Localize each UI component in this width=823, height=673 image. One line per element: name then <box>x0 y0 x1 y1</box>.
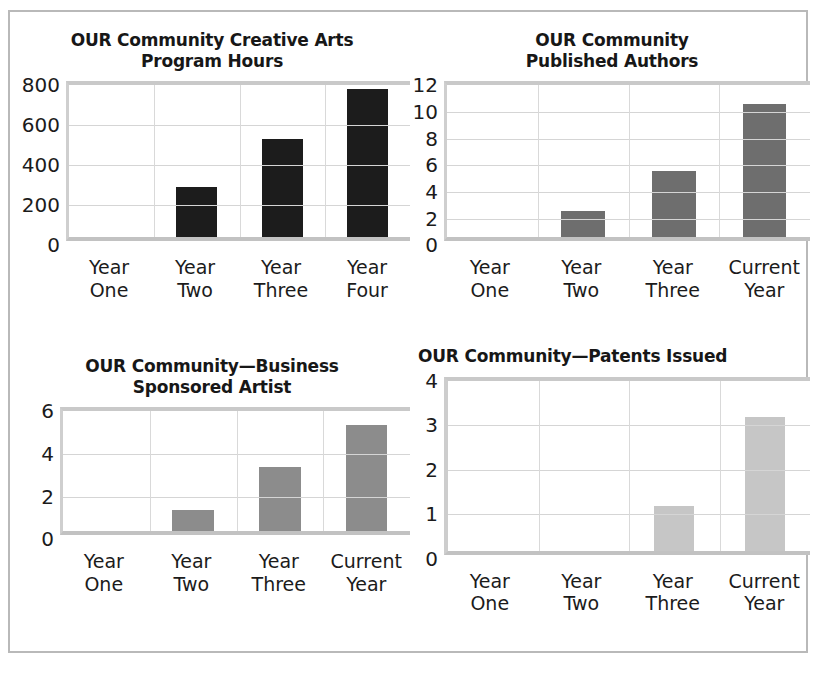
chart-panel-published-authors: OUR Community Published Authors 02468101… <box>414 22 810 340</box>
plot-area <box>60 407 410 535</box>
y-axis-tick-label: 2 <box>41 487 54 507</box>
x-axis-category-label: Year Three <box>238 256 324 301</box>
x-axis-category-label: Year One <box>444 570 536 615</box>
bar-slot <box>237 411 324 531</box>
plot-area <box>444 377 810 555</box>
vertical-gridline <box>629 381 630 551</box>
bar-slot <box>538 85 629 237</box>
bar-slot <box>63 411 150 531</box>
y-axis-tick-label: 2 <box>425 209 438 229</box>
bar <box>346 425 388 532</box>
x-axis-spacer <box>414 256 444 301</box>
bar <box>745 417 785 551</box>
y-axis-tick-label: 0 <box>425 235 438 255</box>
x-axis-labels: Year OneYear TwoYear ThreeCurrent Year <box>444 570 810 615</box>
y-axis-tick-label: 0 <box>47 235 60 255</box>
chart-title: OUR Community—Business Sponsored Artist <box>14 348 410 397</box>
chart-title: OUR Community Creative Arts Program Hour… <box>14 22 410 71</box>
bar-slot <box>447 85 538 237</box>
plot-area <box>444 81 810 241</box>
x-axis-category-label: Current Year <box>719 256 811 301</box>
x-axis-category-label: Year Two <box>152 256 238 301</box>
bar <box>654 506 694 551</box>
x-axis-labels: Year OneYear TwoYear ThreeYear Four <box>66 256 410 301</box>
plot-wrap: 0246 <box>14 407 410 543</box>
y-axis-tick-label: 6 <box>425 155 438 175</box>
y-axis: 024681012 <box>414 81 444 249</box>
bar-slot <box>323 411 410 531</box>
y-axis-tick-label: 0 <box>41 529 54 549</box>
vertical-gridline <box>240 85 241 237</box>
bar <box>172 510 214 531</box>
bar-slot <box>150 411 237 531</box>
y-axis: 0246 <box>14 407 60 543</box>
y-axis: 0200400600800 <box>14 81 66 249</box>
bar <box>259 467 301 531</box>
x-axis: Year OneYear TwoYear ThreeCurrent Year <box>414 570 810 615</box>
bar <box>561 211 605 238</box>
bar <box>743 104 787 237</box>
y-axis-tick-label: 4 <box>425 371 438 391</box>
y-axis: 01234 <box>414 377 444 563</box>
x-axis-spacer <box>14 550 60 595</box>
x-axis-category-label: Year Two <box>536 570 628 615</box>
y-axis-tick-label: 8 <box>425 129 438 149</box>
bar-slot <box>448 381 539 551</box>
x-axis: Year OneYear TwoYear ThreeCurrent Year <box>414 256 810 301</box>
bar <box>652 171 696 238</box>
plot-wrap: 024681012 <box>414 81 810 249</box>
x-axis-category-label: Year Four <box>324 256 410 301</box>
y-axis-tick-label: 3 <box>425 415 438 435</box>
x-axis-category-label: Year Three <box>235 550 323 595</box>
bar-slot <box>719 85 810 237</box>
x-axis-category-label: Year One <box>66 256 152 301</box>
x-axis-labels: Year OneYear TwoYear ThreeCurrent Year <box>60 550 410 595</box>
y-axis-tick-label: 800 <box>22 75 60 95</box>
x-axis-category-label: Year One <box>60 550 148 595</box>
vertical-gridline <box>150 411 151 531</box>
vertical-gridline <box>719 85 720 237</box>
y-axis-tick-label: 12 <box>413 75 438 95</box>
bar <box>176 187 217 237</box>
vertical-gridline <box>323 411 324 531</box>
y-axis-tick-label: 2 <box>425 460 438 480</box>
y-axis-tick-label: 600 <box>22 115 60 135</box>
x-axis-category-label: Year Three <box>627 570 719 615</box>
x-axis-labels: Year OneYear TwoYear ThreeCurrent Year <box>444 256 810 301</box>
vertical-gridline <box>538 85 539 237</box>
y-axis-tick-label: 10 <box>413 102 438 122</box>
chart-title: OUR Community—Patents Issued <box>414 338 810 367</box>
bar-slot <box>240 85 325 237</box>
x-axis: Year OneYear TwoYear ThreeCurrent Year <box>14 550 410 595</box>
y-axis-tick-label: 6 <box>41 401 54 421</box>
y-axis-tick-label: 4 <box>425 182 438 202</box>
x-axis-category-label: Current Year <box>719 570 811 615</box>
chart-grid: OUR Community Creative Arts Program Hour… <box>0 0 823 673</box>
bar-slot <box>629 381 720 551</box>
chart-panel-business-sponsored-artist: OUR Community—Business Sponsored Artist … <box>14 348 410 648</box>
bar <box>347 89 388 237</box>
bar-slot <box>154 85 239 237</box>
plot-wrap: 01234 <box>414 377 810 563</box>
bar-slot <box>539 381 630 551</box>
bar-slot <box>325 85 410 237</box>
y-axis-tick-label: 200 <box>22 195 60 215</box>
x-axis-category-label: Year Two <box>148 550 236 595</box>
x-axis-spacer <box>14 256 66 301</box>
x-axis-category-label: Year Two <box>536 256 628 301</box>
plot-wrap: 0200400600800 <box>14 81 410 249</box>
x-axis-spacer <box>414 570 444 615</box>
y-axis-tick-label: 4 <box>41 444 54 464</box>
x-axis-category-label: Year Three <box>627 256 719 301</box>
bar-slot <box>629 85 720 237</box>
y-axis-tick-label: 0 <box>425 549 438 569</box>
x-axis-category-label: Year One <box>444 256 536 301</box>
chart-title: OUR Community Published Authors <box>414 22 810 71</box>
x-axis-category-label: Current Year <box>323 550 411 595</box>
vertical-gridline <box>237 411 238 531</box>
chart-panel-patents-issued: OUR Community—Patents Issued 01234 Year … <box>414 338 810 648</box>
y-axis-tick-label: 400 <box>22 155 60 175</box>
x-axis: Year OneYear TwoYear ThreeYear Four <box>14 256 410 301</box>
bar-slot <box>720 381 811 551</box>
vertical-gridline <box>539 381 540 551</box>
